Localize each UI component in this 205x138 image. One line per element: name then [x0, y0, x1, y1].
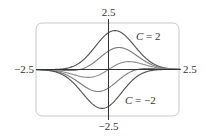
y-top-tick-label: 2.5 — [102, 6, 116, 18]
y-bottom-tick-label: −2.5 — [99, 120, 119, 132]
annotation-c-neg2: C = −2 — [125, 94, 156, 106]
annotation-c-2: C = 2 — [136, 30, 161, 42]
curve-family-chart: 2.5 −2.5 −2.5 2.5 C = 2 C = −2 — [0, 0, 205, 138]
x-left-tick-label: −2.5 — [14, 63, 34, 75]
x-right-tick-label: 2.5 — [183, 63, 197, 75]
